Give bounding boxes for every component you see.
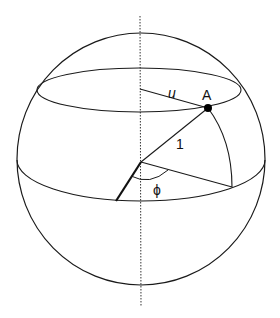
vertical-axis bbox=[140, 16, 141, 306]
label-a: A bbox=[202, 87, 212, 103]
sphere-diagram: A u 1 ϕ bbox=[0, 0, 280, 318]
point-a bbox=[204, 104, 212, 112]
phi-arc bbox=[131, 170, 168, 180]
label-radius: 1 bbox=[176, 136, 184, 152]
radius-line bbox=[141, 108, 208, 162]
label-u: u bbox=[168, 85, 176, 101]
meridian-arc bbox=[208, 108, 232, 187]
reference-axis bbox=[116, 162, 141, 201]
label-phi: ϕ bbox=[153, 182, 161, 198]
